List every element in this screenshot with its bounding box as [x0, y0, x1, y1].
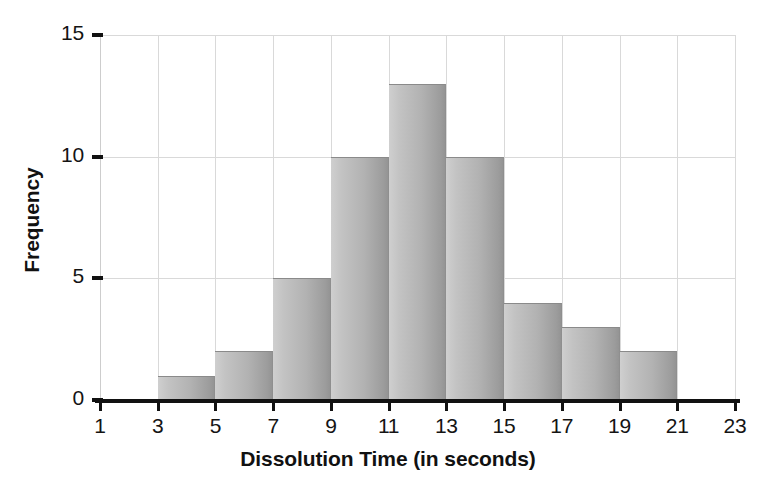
x-axis-tick: [619, 400, 622, 411]
y-axis-tick: [92, 155, 103, 159]
x-axis-line: [95, 399, 740, 403]
plot-area: [100, 35, 735, 400]
x-axis-tick-label: 9: [301, 414, 361, 438]
histogram-bar: [504, 303, 562, 400]
x-axis-tick-label: 3: [128, 414, 188, 438]
y-axis-line: [100, 33, 101, 400]
gridline-vertical: [735, 35, 736, 400]
gridline-vertical: [158, 35, 159, 400]
x-axis-tick: [676, 400, 679, 411]
histogram-bar: [273, 278, 331, 400]
x-axis-tick-label: 13: [416, 414, 476, 438]
y-axis-tick-label: 0: [0, 386, 84, 410]
x-axis-tick-label: 19: [590, 414, 650, 438]
histogram-bar: [562, 327, 620, 400]
y-axis-tick: [92, 398, 103, 402]
y-axis-tick: [92, 33, 103, 37]
x-axis-tick-label: 7: [243, 414, 303, 438]
x-axis-tick-label: 23: [705, 414, 765, 438]
x-axis-tick-label: 1: [70, 414, 130, 438]
x-axis-tick: [734, 400, 737, 411]
gridline-horizontal: [100, 35, 735, 36]
histogram-chart: 1357911131517192123 051015 Dissolution T…: [0, 0, 776, 489]
x-axis-tick-label: 21: [647, 414, 707, 438]
histogram-bar: [446, 157, 504, 400]
x-axis-tick-label: 5: [185, 414, 245, 438]
histogram-bar: [331, 157, 389, 400]
x-axis-tick-label: 17: [532, 414, 592, 438]
y-axis-tick-label: 15: [0, 21, 84, 45]
y-axis-title: Frequency: [20, 110, 44, 330]
x-axis-tick-label: 11: [359, 414, 419, 438]
x-axis-tick: [561, 400, 564, 411]
histogram-bar: [620, 351, 678, 400]
x-axis-tick: [272, 400, 275, 411]
histogram-bar: [158, 376, 216, 400]
gridline-vertical: [215, 35, 216, 400]
y-axis-tick: [92, 276, 103, 280]
gridline-vertical: [677, 35, 678, 400]
histogram-bar: [389, 84, 447, 400]
gridline-vertical: [620, 35, 621, 400]
x-axis-tick: [157, 400, 160, 411]
x-axis-tick: [214, 400, 217, 411]
x-axis-tick: [503, 400, 506, 411]
histogram-bar: [215, 351, 273, 400]
x-axis-tick: [388, 400, 391, 411]
x-axis-tick-label: 15: [474, 414, 534, 438]
x-axis-tick: [445, 400, 448, 411]
x-axis-title: Dissolution Time (in seconds): [0, 447, 776, 471]
x-axis-tick: [330, 400, 333, 411]
